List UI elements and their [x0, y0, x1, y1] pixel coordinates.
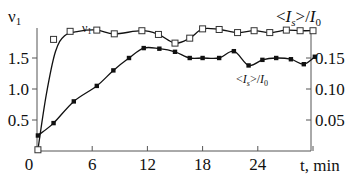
open-square-marker — [235, 30, 241, 36]
open-square-marker — [155, 31, 161, 37]
filled-square-marker — [217, 56, 221, 60]
x-tick-label: 24 — [249, 155, 267, 174]
filled-square-marker — [313, 55, 317, 59]
right-y-tick-label: 0.15 — [315, 49, 345, 68]
filled-square-marker — [36, 133, 40, 137]
open-square-marker — [35, 147, 41, 153]
filled-square-marker — [51, 121, 55, 125]
filled-square-marker — [173, 50, 177, 54]
left-axis-title: v1 ν1 — [8, 7, 21, 27]
filled-square-marker — [232, 49, 236, 53]
filled-square-marker — [111, 68, 115, 72]
left-y-tick-label: 0.5 — [8, 111, 29, 130]
filled-square-marker — [188, 56, 192, 60]
filled-square-marker — [95, 84, 99, 88]
filled-square-marker — [142, 46, 146, 50]
open-square-marker — [51, 36, 57, 42]
x-tick-label: 18 — [194, 155, 211, 174]
x-tick-label: 0 — [25, 155, 34, 174]
open-square-marker — [297, 28, 303, 34]
filled-square-marker — [302, 62, 306, 66]
open-square-marker — [251, 28, 257, 34]
v1-markers — [35, 26, 316, 153]
filled-square-marker — [246, 63, 250, 67]
filled-square-marker — [289, 57, 293, 61]
filled-square-marker — [72, 99, 76, 103]
open-square-marker — [310, 28, 316, 34]
open-square-marker — [200, 26, 206, 32]
filled-square-marker — [260, 58, 264, 62]
open-square-marker — [111, 31, 117, 37]
is-ratio-markers — [36, 46, 317, 138]
right-y-tick-label: 0.05 — [315, 111, 345, 130]
x-tick-label: 12 — [139, 155, 156, 174]
open-square-marker — [267, 30, 273, 36]
right-axis-title: <Is>/I0 — [276, 7, 322, 28]
filled-square-marker — [274, 56, 278, 60]
x-axis-title: t, min — [300, 156, 340, 175]
filled-square-marker — [127, 56, 131, 60]
left-y-tick-label: 1.0 — [8, 80, 29, 99]
dual-axis-line-chart: 061218240.51.01.50.050.100.15 v1 ν1 <Is>… — [0, 0, 355, 178]
is-ratio-curve — [38, 47, 315, 135]
filled-square-marker — [157, 47, 161, 51]
open-square-marker — [216, 26, 222, 32]
filled-square-marker — [200, 56, 204, 60]
x-tick-label: 6 — [88, 155, 97, 174]
open-square-marker — [139, 28, 145, 34]
right-y-tick-label: 0.10 — [315, 80, 345, 99]
v1-series-label: ν1 — [82, 21, 91, 36]
left-y-tick-label: 1.5 — [8, 49, 29, 68]
tick-labels: 061218240.51.01.50.050.100.15 — [8, 49, 345, 174]
open-square-marker — [94, 27, 100, 33]
open-square-marker — [187, 35, 193, 41]
open-square-marker — [172, 40, 178, 46]
open-square-marker — [283, 27, 289, 33]
open-square-marker — [67, 28, 73, 34]
tick-marks — [32, 58, 313, 151]
is-ratio-series-label: <Is>/I0 — [236, 72, 268, 88]
